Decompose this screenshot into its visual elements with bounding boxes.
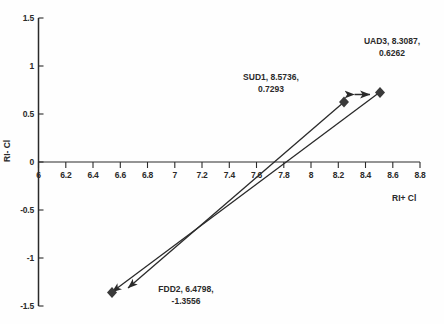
point-label-uad3: UAD3, 8.3087, 0.6262 xyxy=(364,35,420,60)
chart-container: 1.5 1 0.5 0 -0.5 -1 -1.5 6 6.2 6.4 6.6 6… xyxy=(0,0,444,324)
x-tick-label-2: 6.4 xyxy=(87,170,98,180)
x-tick-label-0: 6 xyxy=(36,170,41,180)
x-tick-label-3: 6.6 xyxy=(115,170,126,180)
y-tick-label-2: 0.5 xyxy=(8,109,34,119)
x-tick-label-5: 7 xyxy=(173,170,178,180)
point-label-sud1: SUD1, 8.5736, 0.7293 xyxy=(243,71,299,96)
x-tick-label-14: 8.8 xyxy=(414,170,425,180)
x-tick-label-6: 7.2 xyxy=(196,170,207,180)
x-tick-label-10: 8 xyxy=(309,170,314,180)
y-tick-label-0: 1.5 xyxy=(8,13,34,23)
marker-uad3 xyxy=(339,97,349,108)
point-label-fdd2-line2: -1.3556 xyxy=(158,295,213,307)
x-tick-label-8: 7.6 xyxy=(251,170,262,180)
y-axis-title: RI- Cl xyxy=(2,140,12,162)
x-tick-label-9: 7.8 xyxy=(278,170,289,180)
y-tick-label-6: -1.5 xyxy=(8,301,34,311)
point-label-uad3-line2: 0.6262 xyxy=(364,47,420,59)
point-label-sud1-line2: 0.7293 xyxy=(243,83,299,95)
y-tick-label-1: 1 xyxy=(8,61,34,71)
y-tick-label-5: -1 xyxy=(8,253,34,263)
x-tick-label-7: 7.4 xyxy=(224,170,235,180)
x-tick-label-13: 8.6 xyxy=(387,170,398,180)
point-label-fdd2-line1: FDD2, 6.4798, xyxy=(158,284,213,294)
x-tick-label-4: 6.8 xyxy=(142,170,153,180)
x-tick-label-1: 6.2 xyxy=(60,170,71,180)
x-axis-title: RI+ Cl xyxy=(392,193,416,203)
point-label-sud1-line1: SUD1, 8.5736, xyxy=(243,72,299,82)
x-tick-label-12: 8.4 xyxy=(360,170,371,180)
point-label-fdd2: FDD2, 6.4798, -1.3556 xyxy=(158,283,213,308)
marker-sud1 xyxy=(375,87,385,98)
connector-sud1-to-fdd2 xyxy=(112,92,380,292)
y-tick-label-4: -0.5 xyxy=(8,205,34,215)
point-label-uad3-line1: UAD3, 8.3087, xyxy=(364,36,420,46)
connector-uad3-to-fdd2 xyxy=(128,102,344,288)
x-axis-ticks xyxy=(39,162,421,168)
x-tick-label-11: 8.2 xyxy=(333,170,344,180)
